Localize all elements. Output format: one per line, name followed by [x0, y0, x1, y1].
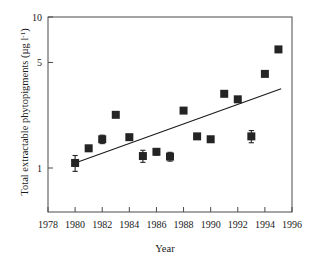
y-axis-title-tail: ) [19, 28, 31, 32]
data-point-marker [139, 152, 147, 160]
y-tick-label: 5 [37, 57, 42, 68]
x-tick-label: 1978 [38, 219, 58, 230]
data-point-marker [207, 135, 215, 143]
x-tick-label: 1994 [255, 219, 275, 230]
y-axis-title-group: Total extractable phytopigments (µg l-1) [19, 28, 31, 196]
x-tick-label: 1988 [174, 219, 194, 230]
x-tick-label: 1984 [119, 219, 139, 230]
data-point-marker [261, 70, 269, 78]
y-tick-label: 1 [37, 163, 42, 174]
data-point-marker [247, 132, 255, 140]
data-point-marker [112, 111, 120, 119]
chart-figure: 1510 19781980198219841986198819901992199… [0, 0, 321, 266]
y-axis-title-main: Total extractable phytopigments (µg l [19, 38, 31, 196]
data-point-marker [71, 159, 79, 167]
data-point-marker [152, 148, 160, 156]
x-tick-label: 1980 [65, 219, 85, 230]
data-point-marker [125, 133, 133, 141]
data-point-marker [85, 144, 93, 152]
data-point-marker [98, 135, 106, 143]
data-point-marker [220, 90, 228, 98]
data-point-marker [274, 45, 282, 53]
x-tick-label: 1982 [92, 219, 112, 230]
x-tick-label: 1996 [282, 219, 302, 230]
data-point-marker [234, 95, 242, 103]
data-point-marker [180, 107, 188, 115]
data-point-marker [193, 132, 201, 140]
x-tick-label: 1986 [146, 219, 166, 230]
x-tick-label: 1990 [201, 219, 221, 230]
y-tick-label: 10 [32, 12, 42, 23]
y-axis-title: Total extractable phytopigments (µg l-1) [19, 28, 31, 196]
x-axis-title: Year [155, 243, 175, 254]
data-point-marker [166, 153, 174, 161]
x-tick-label: 1992 [228, 219, 248, 230]
